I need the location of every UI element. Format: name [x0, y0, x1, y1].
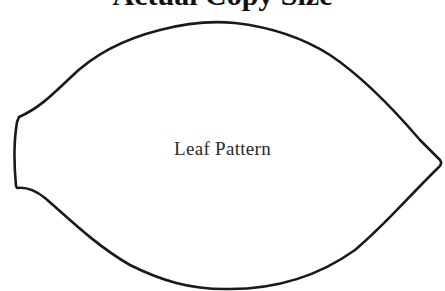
pattern-label: Leaf Pattern [0, 138, 445, 160]
